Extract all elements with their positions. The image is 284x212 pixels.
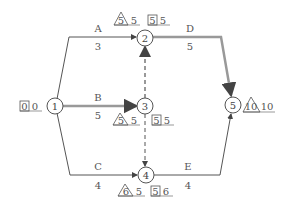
svg-text:5: 5 [153, 115, 159, 126]
activity-e-label: E [184, 161, 191, 172]
activity-e-duration: 4 [185, 180, 191, 191]
node-4: 4 [138, 167, 154, 183]
activity-a-label: A [93, 23, 102, 34]
svg-text:5: 5 [152, 186, 158, 197]
svg-text:4: 4 [143, 170, 149, 181]
node-4-times: 6 5 5 6 [118, 184, 173, 197]
svg-text:6: 6 [123, 186, 129, 197]
activity-c-label: C [94, 161, 102, 172]
svg-text:5: 5 [149, 15, 155, 26]
activity-d-label: D [186, 23, 194, 34]
node-2: 2 [137, 30, 153, 46]
svg-text:5: 5 [131, 115, 137, 126]
network-diagram: A 3 B 5 C 4 D 5 E 4 1 2 3 4 5 0 0 [0, 0, 284, 212]
svg-text:6: 6 [163, 186, 169, 197]
svg-text:10: 10 [245, 101, 258, 112]
svg-text:0: 0 [21, 101, 27, 112]
svg-text:3: 3 [142, 101, 148, 112]
node-1-times: 0 0 [20, 101, 42, 112]
node-5: 5 [225, 97, 241, 113]
activity-b-label: B [94, 92, 101, 103]
svg-text:0: 0 [32, 101, 38, 112]
activity-d-duration: 5 [187, 41, 193, 52]
svg-text:5: 5 [160, 15, 166, 26]
activity-c-duration: 4 [95, 180, 101, 191]
svg-text:10: 10 [261, 101, 274, 112]
svg-text:5: 5 [136, 186, 142, 197]
svg-text:1: 1 [52, 101, 58, 112]
svg-text:5: 5 [230, 100, 236, 111]
node-1: 1 [47, 98, 63, 114]
activity-a-duration: 3 [95, 41, 101, 52]
svg-text:5: 5 [118, 15, 124, 26]
svg-text:5: 5 [131, 15, 137, 26]
node-3-times: 5 5 5 5 [113, 113, 174, 126]
node-2-times: 5 5 5 5 [114, 12, 170, 26]
svg-text:2: 2 [142, 33, 148, 44]
svg-text:5: 5 [118, 115, 124, 126]
node-3: 3 [137, 98, 153, 114]
node-5-times: 10 10 [243, 97, 275, 112]
svg-text:5: 5 [164, 115, 170, 126]
activity-b-duration: 5 [95, 110, 101, 121]
